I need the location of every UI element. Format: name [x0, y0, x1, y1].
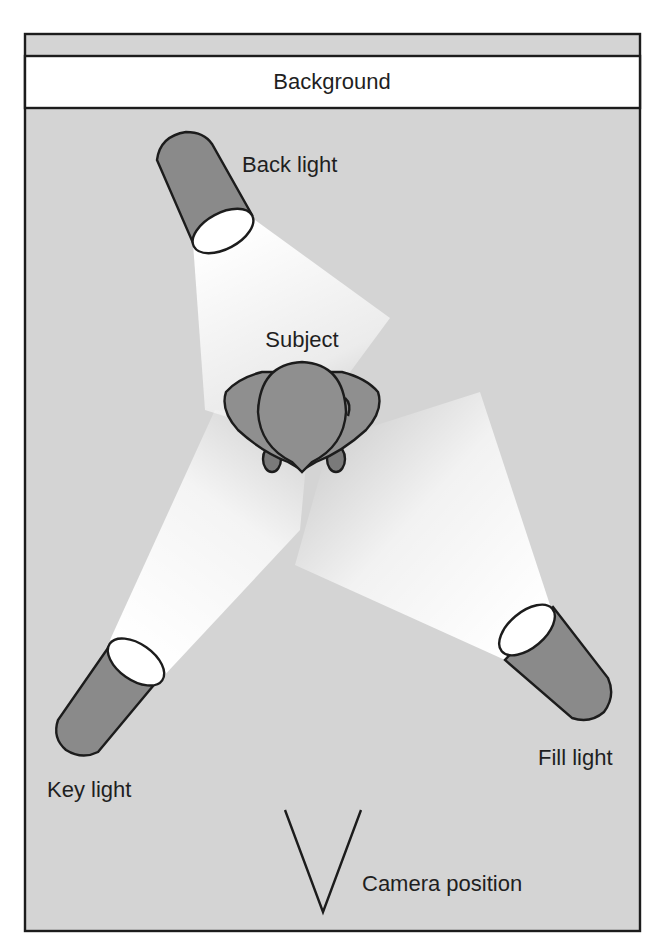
background-label: Background	[273, 69, 390, 94]
lighting-diagram: Background Back light Subject Key light …	[0, 0, 664, 944]
background-strip: Background	[25, 56, 640, 108]
fill-light-label: Fill light	[538, 745, 613, 770]
camera-position-label: Camera position	[362, 871, 522, 896]
key-light-label: Key light	[47, 777, 131, 802]
back-light-label: Back light	[242, 152, 337, 177]
subject-label: Subject	[265, 327, 338, 352]
